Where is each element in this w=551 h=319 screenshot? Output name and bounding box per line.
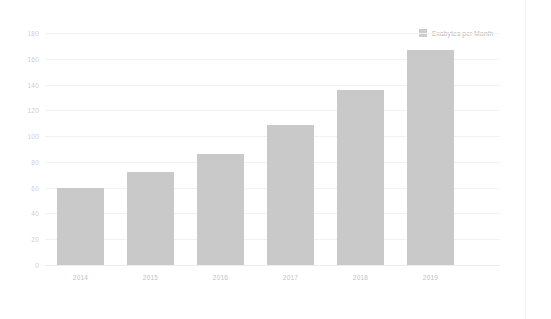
y-tick-label: 160 [28,55,39,62]
bar-group-2016: 2016 [197,33,244,265]
y-tick-label: 40 [31,210,39,217]
bar-group-2018: 2018 [337,33,384,265]
x-tick-label-2017: 2017 [267,274,314,281]
y-tick-label: 140 [28,81,39,88]
page-edge-rule [525,0,526,319]
gridline-0-baseline: 0 [45,265,500,266]
bar-2018[interactable] [337,90,384,265]
bar-chart: Exabytes per Month 180 160 140 120 100 8… [0,0,551,319]
x-tick-label-2016: 2016 [197,274,244,281]
x-tick-label-2019: 2019 [407,274,454,281]
bar-series-exabytes-per-month: 2014 2015 2016 2017 2018 2019 [45,33,500,265]
plot-area: 180 160 140 120 100 80 60 40 20 0 [45,33,500,265]
bar-group-2014: 2014 [57,33,104,265]
bar-2016[interactable] [197,154,244,265]
x-tick-label-2014: 2014 [57,274,104,281]
y-tick-label: 180 [28,30,39,37]
bar-group-2017: 2017 [267,33,314,265]
y-tick-label: 20 [31,236,39,243]
y-tick-label: 120 [28,107,39,114]
x-tick-label-2015: 2015 [127,274,174,281]
bar-2014[interactable] [57,188,104,265]
x-tick-label-2018: 2018 [337,274,384,281]
y-tick-label: 100 [28,133,39,140]
y-tick-label: 80 [31,158,39,165]
bar-2017[interactable] [267,125,314,266]
y-tick-label: 60 [31,184,39,191]
bar-2019[interactable] [407,50,454,265]
bar-group-2019: 2019 [407,33,454,265]
y-tick-label: 0 [35,262,39,269]
bar-2015[interactable] [127,172,174,265]
bar-group-2015: 2015 [127,33,174,265]
